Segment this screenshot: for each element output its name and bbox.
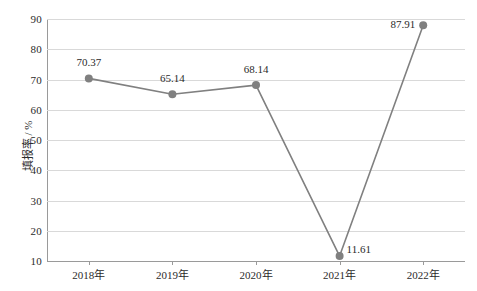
series-line	[47, 19, 465, 261]
y-tick-label-40: 40	[31, 164, 42, 176]
line-chart: 填报率 / % 102030405060708090 70.3765.1468.…	[0, 0, 477, 291]
y-tick-label-70: 70	[31, 74, 42, 86]
x-tick-label-2021年: 2021年	[323, 266, 356, 282]
x-tick-label-2018年: 2018年	[72, 266, 105, 282]
y-tick-label-80: 80	[31, 43, 42, 55]
data-label-2020年: 68.14	[244, 63, 269, 75]
data-label-2022年: 87.91	[390, 18, 415, 30]
series-polyline	[89, 25, 423, 256]
x-tick-mark-2020年	[256, 261, 257, 265]
x-tick-mark-2021年	[340, 261, 341, 265]
x-tick-label-2020年: 2020年	[240, 266, 273, 282]
data-point-2019年[interactable]	[168, 90, 176, 98]
y-axis-tick-labels: 102030405060708090	[0, 19, 42, 261]
x-tick-label-2019年: 2019年	[156, 266, 189, 282]
y-tick-label-90: 90	[31, 13, 42, 25]
x-tick-mark-2018年	[89, 261, 90, 265]
data-point-2018年[interactable]	[85, 74, 93, 82]
x-tick-label-2022年: 2022年	[407, 266, 440, 282]
x-tick-mark-2019年	[172, 261, 173, 265]
y-tick-label-10: 10	[31, 255, 42, 267]
data-point-2021年[interactable]	[336, 252, 344, 260]
plot-area: 70.3765.1468.1411.6187.91	[47, 19, 465, 261]
data-label-2018年: 70.37	[76, 56, 101, 68]
data-label-2021年: 11.61	[347, 243, 371, 255]
data-point-2020年[interactable]	[252, 81, 260, 89]
x-axis-tick-labels: 2018年2019年2020年2021年2022年	[47, 266, 465, 288]
series-markers	[85, 21, 427, 260]
y-tick-label-30: 30	[31, 195, 42, 207]
data-point-2022年[interactable]	[419, 21, 427, 29]
y-tick-label-60: 60	[31, 104, 42, 116]
y-tick-label-50: 50	[31, 134, 42, 146]
data-label-2019年: 65.14	[160, 72, 185, 84]
y-tick-label-20: 20	[31, 225, 42, 237]
x-tick-mark-2022年	[423, 261, 424, 265]
